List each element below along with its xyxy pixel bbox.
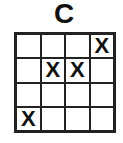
grid-cell bbox=[90, 83, 115, 107]
grid-cell bbox=[65, 34, 90, 58]
grid-cell: X bbox=[41, 58, 66, 82]
grid-cell bbox=[90, 107, 115, 131]
grid-cell bbox=[65, 83, 90, 107]
tic-grid: X X X X bbox=[14, 32, 116, 133]
grid-title: C bbox=[0, 0, 123, 28]
grid-cell bbox=[16, 58, 41, 82]
grid-cell bbox=[16, 83, 41, 107]
grid-cell bbox=[41, 34, 66, 58]
grid-cell bbox=[41, 83, 66, 107]
grid-cell: X bbox=[16, 107, 41, 131]
grid-cell bbox=[41, 107, 66, 131]
grid-cell: X bbox=[65, 58, 90, 82]
grid-cell bbox=[90, 58, 115, 82]
grid-cell: X bbox=[90, 34, 115, 58]
grid-cell bbox=[65, 107, 90, 131]
grid-cell bbox=[16, 34, 41, 58]
